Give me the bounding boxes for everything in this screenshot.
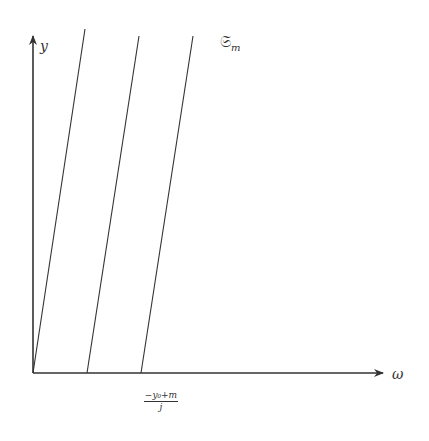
y-axis-label: y	[40, 38, 48, 54]
x-axis-label: ω	[392, 366, 403, 382]
diagram-canvas	[0, 0, 429, 441]
family-line-1	[33, 29, 85, 373]
family-subscript: m	[231, 42, 240, 53]
intercept-tick-label: −y₀+m j	[136, 390, 186, 413]
family-line-3	[141, 36, 193, 373]
fraction-denominator: j	[136, 402, 186, 413]
family-symbol: 𝔖	[220, 32, 231, 51]
family-line-2	[87, 36, 139, 373]
fraction-numerator: −y₀+m	[144, 390, 178, 402]
family-label: 𝔖m	[220, 32, 240, 53]
